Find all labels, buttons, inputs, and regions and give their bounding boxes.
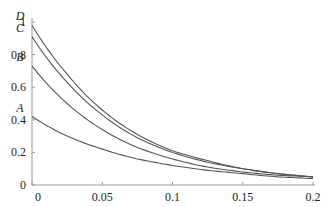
- curve-d: [32, 25, 313, 177]
- x-tick-label: 0.05: [92, 190, 113, 204]
- y-tick-label: 0: [20, 178, 26, 192]
- x-tick-label: 0.2: [306, 190, 321, 204]
- y-tick-label: 0.2: [11, 145, 26, 159]
- y-tick-label: 0.4: [11, 113, 26, 127]
- line-chart-svg: 00.050.10.150.200.20.40.60.81 ABCD: [0, 0, 329, 207]
- x-tick-label: 0.1: [165, 190, 180, 204]
- curve-label-a: A: [15, 101, 24, 115]
- x-tick-label: 0.15: [232, 190, 253, 204]
- curve-label-d: D: [15, 9, 25, 23]
- curve-labels: ABCD: [15, 9, 25, 114]
- curve-a: [32, 117, 313, 179]
- x-tick-label: 0: [35, 190, 41, 204]
- chart: 00.050.10.150.200.20.40.60.81 ABCD: [0, 0, 329, 207]
- curve-c: [32, 37, 313, 177]
- curve-label-b: B: [16, 50, 24, 64]
- y-tick-label: 0.6: [11, 80, 26, 94]
- curves: [32, 25, 313, 178]
- axes: 00.050.10.150.200.20.40.60.81: [11, 15, 321, 204]
